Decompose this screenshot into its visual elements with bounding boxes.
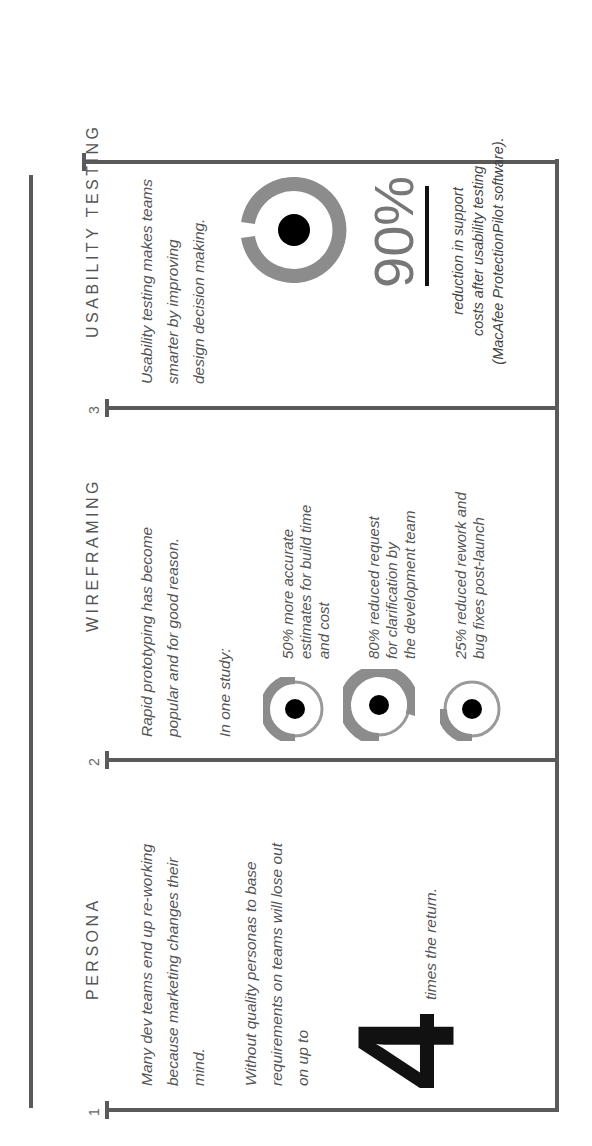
text-line: popular and for good reason. bbox=[160, 527, 186, 737]
text-line: Many dev teams end up re-working bbox=[134, 844, 160, 1086]
divider-2 bbox=[107, 758, 559, 762]
persona-paragraph-1: Many dev teams end up re-working because… bbox=[134, 844, 212, 1086]
text-line: on up to bbox=[290, 843, 316, 1086]
usability-stat-value: 90% bbox=[366, 176, 422, 288]
text-line: 25% reduced rework and bbox=[452, 492, 470, 659]
divider-1-cap bbox=[105, 1101, 109, 1119]
persona-paragraph-2: Without quality personas to base require… bbox=[238, 843, 316, 1086]
donut-80-icon bbox=[343, 669, 415, 741]
donut-90-icon bbox=[241, 177, 347, 283]
text-line: Rapid prototyping has become bbox=[134, 527, 160, 737]
text-line: and cost bbox=[315, 505, 333, 659]
text-line: Without quality personas to base bbox=[238, 843, 264, 1086]
stat-underline bbox=[425, 186, 429, 286]
top-rule bbox=[29, 175, 33, 1108]
donut-25-icon bbox=[440, 677, 504, 741]
text-line: 50% more accurate bbox=[279, 505, 297, 659]
infographic-stage: 1 2 3 PERSONA Many dev teams end up re-w… bbox=[0, 0, 592, 1146]
section-title-usability-testing: USABILITY TESTING bbox=[84, 123, 102, 338]
usability-caption: reduction in support costs after usabili… bbox=[448, 116, 508, 386]
stat-25-text: 25% reduced rework and bug fixes post-la… bbox=[452, 492, 488, 659]
text-line: Usability testing makes teams bbox=[134, 179, 160, 384]
section-title-wireframing: WIREFRAMING bbox=[84, 478, 102, 632]
divider-3-cap bbox=[105, 399, 109, 417]
text-line: design decision making. bbox=[186, 179, 212, 384]
divider-1 bbox=[107, 1108, 559, 1112]
text-line: because marketing changes their bbox=[160, 844, 186, 1086]
text-line: bug fixes post-launch bbox=[470, 492, 488, 659]
text-line: mind. bbox=[186, 844, 212, 1086]
persona-big-number-caption: times the return. bbox=[418, 888, 444, 1000]
stat-50-text: 50% more accurate estimates for build ti… bbox=[279, 505, 333, 659]
section-number-1: 1 bbox=[86, 1108, 102, 1116]
text-line: costs after usability testing bbox=[468, 116, 488, 386]
section-number-2: 2 bbox=[86, 758, 102, 766]
usability-paragraph-1: Usability testing makes teams smarter by… bbox=[134, 179, 212, 384]
text-line: (MacAfee ProtectionPilot software). bbox=[488, 116, 508, 386]
persona-big-number: 4 bbox=[336, 1013, 474, 1090]
section-number-3: 3 bbox=[86, 406, 102, 414]
text-line: 80% reduced request bbox=[365, 511, 383, 659]
wireframing-paragraph-1: Rapid prototyping has become popular and… bbox=[134, 527, 186, 737]
wireframing-intro: In one study: bbox=[212, 648, 238, 737]
text-line: estimates for build time bbox=[297, 505, 315, 659]
text-line: reduction in support bbox=[448, 116, 468, 386]
text-line: smarter by improving bbox=[160, 179, 186, 384]
section-title-persona: PERSONA bbox=[84, 897, 102, 1000]
donut-50-icon bbox=[263, 677, 327, 741]
text-line: requirements on teams will lose out bbox=[264, 843, 290, 1086]
divider-3 bbox=[107, 406, 559, 410]
text-line: for clarification by bbox=[383, 511, 401, 659]
text-line: the development team bbox=[401, 511, 419, 659]
bottom-rule bbox=[555, 159, 559, 1110]
divider-2-cap bbox=[105, 751, 109, 769]
stat-80-text: 80% reduced request for clarification by… bbox=[365, 511, 419, 659]
